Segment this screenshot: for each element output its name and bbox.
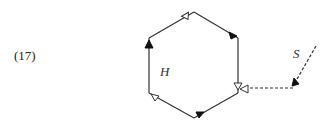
label-s: S — [293, 46, 300, 62]
label-h: H — [160, 64, 169, 80]
diagram-figure: (17) H S — [0, 0, 332, 127]
filled-arrow-icon — [196, 112, 204, 118]
open-arrow-icon — [240, 85, 248, 93]
filled-arrow-icon — [229, 32, 237, 39]
filled-arrow-icon — [145, 40, 153, 48]
open-arrow-icon — [151, 94, 159, 101]
filled-arrow-icon — [292, 78, 299, 86]
